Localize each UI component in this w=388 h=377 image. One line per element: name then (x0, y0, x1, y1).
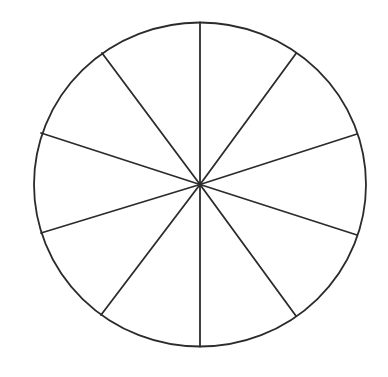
diagram-canvas (0, 0, 388, 377)
center-point (198, 183, 202, 187)
divided-circle-diagram (0, 0, 388, 377)
